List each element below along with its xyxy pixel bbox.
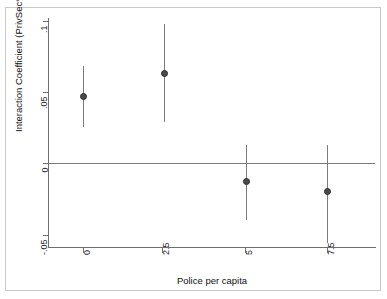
data-point-marker <box>161 70 168 77</box>
y-axis-title: Interaction Coefficient (PrivSec*PubPol) <box>14 0 24 132</box>
data-point-marker <box>324 188 331 195</box>
plot-area <box>48 18 375 247</box>
chart-figure: .1 .05 0 -.05 0 2.5 5 7.5 Interaction Co… <box>0 0 387 299</box>
data-point-marker <box>243 178 250 185</box>
x-tick-label: 5 <box>245 250 254 255</box>
x-axis-title: Police per capita <box>48 276 376 286</box>
x-tick-label: 0 <box>83 250 92 255</box>
data-point-marker <box>80 93 87 100</box>
zero-reference-line <box>48 163 375 164</box>
